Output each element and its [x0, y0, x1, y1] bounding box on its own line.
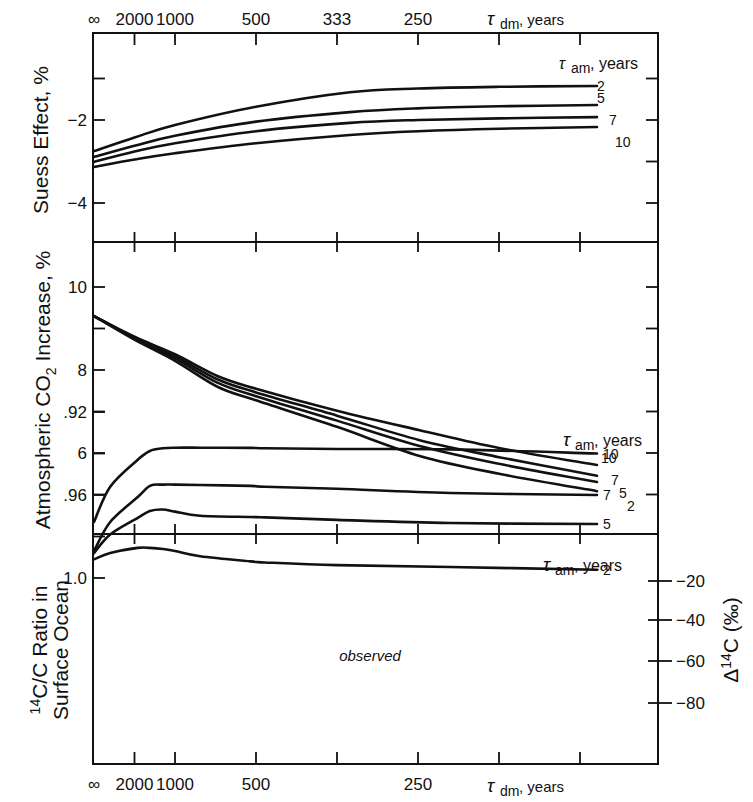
y-tick-label: 8	[78, 361, 87, 380]
top-x-axis-labels: ∞20001000500333250	[88, 10, 432, 29]
x-tick-label: 333	[323, 10, 351, 29]
series-line-tau-am-2	[94, 316, 597, 491]
legend-tau-unit: , years	[590, 55, 638, 72]
series-label-5: 5	[597, 90, 605, 106]
series-label-7: 7	[609, 112, 617, 128]
tau-dm-sub: dm	[500, 783, 519, 799]
x-tick-label: 1000	[156, 10, 194, 29]
tau-dm-unit: , years	[519, 11, 564, 28]
x-tick-label: 2000	[116, 10, 154, 29]
y-tick-label: .92	[63, 403, 87, 422]
c14-y-label-line1: 14C/C Ratio in	[27, 586, 51, 715]
y2-tick-label: −40	[676, 611, 705, 630]
tau-dm-symbol: τ	[487, 775, 496, 796]
legend-tau-unit: , years	[574, 557, 622, 574]
series-label-5: 5	[619, 485, 627, 501]
x-tick-label: 250	[404, 10, 432, 29]
y2-tick-label: −80	[676, 694, 705, 713]
x-tick-label: ∞	[88, 775, 100, 794]
series-label-10: 10	[603, 446, 619, 462]
bottom-x-axis-labels: ∞20001000500250	[88, 775, 432, 794]
panel-c14-ratio: observed 25710 τ am , years 14C/C Ratio …	[27, 446, 742, 721]
tau-dm-symbol: τ	[487, 8, 496, 29]
tau-dm-unit: , years	[519, 778, 564, 795]
suess-y-label: Suess Effect, %	[29, 66, 52, 214]
y-tick-label: 6	[78, 444, 87, 463]
co2-y-label: Atmospheric CO2 Increase, %	[31, 251, 59, 530]
series-label-7: 7	[611, 472, 619, 488]
panel-suess-effect: 25710 τ am , years Suess Effect, %	[29, 55, 638, 214]
legend-tau-symbol: τ	[543, 554, 552, 575]
x-tick-label: 500	[242, 10, 270, 29]
series-line-tau-am-10	[94, 316, 597, 465]
series-label-5: 5	[603, 516, 611, 532]
suess-curves: 25710	[94, 78, 631, 167]
bottom-x-axis-title: τ dm , years	[487, 775, 564, 799]
x-tick-label: 2000	[116, 775, 154, 794]
series-line-tau-am-2	[94, 547, 597, 569]
figure: ∞20001000500333250 τ dm , years −2−41086…	[0, 0, 753, 802]
y-tick-label: −2	[68, 111, 87, 130]
series-line-tau-am-5	[94, 316, 597, 482]
x-tick-label: ∞	[88, 10, 100, 29]
x-tick-label: 500	[242, 775, 270, 794]
observed-label: observed	[339, 647, 401, 664]
series-label-10: 10	[615, 134, 631, 150]
y-tick-label: 10	[68, 278, 87, 297]
y2-tick-label: −60	[676, 652, 705, 671]
legend-tau-sub: am	[571, 60, 590, 76]
legend-tau-symbol: τ	[559, 55, 566, 72]
legend-tau-sub: am	[575, 437, 594, 453]
series-line-tau-am-10	[94, 127, 597, 167]
x-tick-label: 1000	[156, 775, 194, 794]
series-line-tau-am-5	[94, 510, 597, 554]
delta14c-axis: −20−40−60−80	[648, 572, 705, 713]
suess-legend: τ am , years	[559, 55, 638, 76]
series-label-7: 7	[603, 487, 611, 503]
series-line-tau-am-7	[94, 485, 597, 552]
delta14c-label: Δ14C (‰)	[718, 597, 742, 683]
series-label-2: 2	[627, 498, 635, 514]
c14-y-label: 14C/C Ratio in Surface Ocean	[27, 580, 72, 720]
tau-dm-sub: dm	[500, 16, 519, 32]
c14-y-label-line2: Surface Ocean	[49, 580, 72, 720]
x-tick-label: 250	[404, 775, 432, 794]
legend-tau-symbol: τ	[563, 429, 572, 450]
y-tick-label: .96	[63, 486, 87, 505]
top-x-axis-title: τ dm , years	[487, 8, 564, 32]
y2-tick-label: −20	[676, 572, 705, 591]
legend-tau-sub: am	[555, 562, 574, 578]
series-line-tau-am-5	[94, 105, 597, 157]
y-tick-label: −4	[68, 194, 87, 213]
